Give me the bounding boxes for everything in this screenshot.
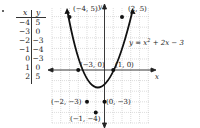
point-label: (1, 0) — [115, 61, 134, 69]
x-axis-label: x — [155, 73, 159, 81]
point-label: (−1, −4) — [70, 115, 101, 123]
point-label: (−4, 5) — [73, 5, 98, 13]
point-label: (−2, −3) — [51, 98, 82, 106]
parabola-graph: x y (−4, 5) (2, 5) (−3, 0) (1, 0) (−2, −… — [0, 0, 200, 128]
point-label: (0, −3) — [106, 98, 131, 106]
equation-label: y = x2 + 2x − 3 — [128, 37, 184, 47]
point-label: (2, 5) — [128, 5, 147, 13]
point-label: (−3, 0) — [80, 61, 105, 69]
parabola-curve — [68, 13, 132, 88]
y-axis-label: y — [97, 3, 103, 11]
